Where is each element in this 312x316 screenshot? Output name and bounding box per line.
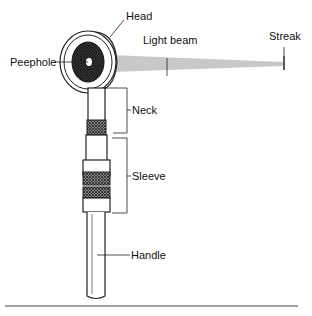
- neck-label: Neck: [132, 104, 157, 116]
- neck: [87, 88, 106, 135]
- sleeve: [83, 135, 110, 212]
- peephole-label: Peephole: [10, 56, 57, 68]
- head-label: Head: [126, 10, 152, 22]
- streak-label: Streak: [269, 30, 301, 42]
- light-beam-label: Light beam: [143, 34, 197, 46]
- retinoscope-illustration: [0, 0, 312, 316]
- sleeve-label: Sleeve: [132, 170, 166, 182]
- handle-label: Handle: [131, 249, 166, 261]
- light-beam: [110, 55, 283, 72]
- retinoscope-diagram: Head Light beam Streak Peephole Neck Sle…: [0, 0, 312, 316]
